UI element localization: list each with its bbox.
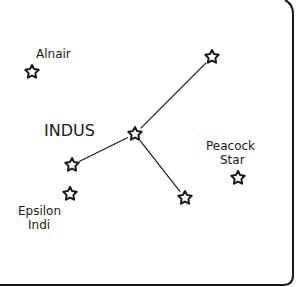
star-icon-indus-center [128, 127, 141, 140]
star-icon-indus-top [205, 50, 218, 63]
star-icon-indus-lower [178, 191, 191, 204]
peacock-label-1: Peacock [206, 139, 255, 153]
star-chart: INDUS Alnair Peacock Star Epsilon Indi [0, 0, 300, 287]
constellation-label: INDUS [44, 121, 95, 140]
connection-line-indus-center-indus-lower [140, 140, 180, 191]
epsilon-label-1: Epsilon [18, 204, 61, 218]
connection-line-indus-center-indus-left [79, 138, 128, 162]
alnair-label: Alnair [36, 47, 71, 61]
star-icon-peacock [231, 171, 244, 184]
peacock-label-2: Star [220, 153, 245, 167]
star-icon-indus-left [65, 158, 78, 171]
star-icon-alnair [25, 65, 38, 78]
star-icon-epsilon-indi [63, 187, 76, 200]
epsilon-label-2: Indi [28, 218, 50, 232]
connection-line-indus-center-indus-top [141, 63, 207, 129]
